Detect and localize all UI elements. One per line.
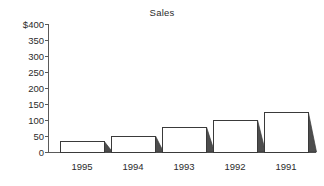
x-tick-label-1991: 1991 <box>275 161 296 172</box>
y-tick-label-100: 100 <box>28 115 44 126</box>
bar-group-1991[interactable] <box>265 113 317 152</box>
bar-1992[interactable] <box>214 120 258 152</box>
bar-1995[interactable] <box>61 142 105 152</box>
bar-group-1994[interactable] <box>112 136 164 152</box>
y-tick-label-0: 0 <box>39 147 44 158</box>
y-tick-label-200: 200 <box>28 83 44 94</box>
bar-group-1993[interactable] <box>163 127 215 152</box>
x-axis-group: 1995 1994 1993 1992 1991 <box>71 161 296 172</box>
x-tick-label-1992: 1992 <box>224 161 245 172</box>
bar-1993[interactable] <box>163 127 207 152</box>
x-tick-label-1995: 1995 <box>71 161 92 172</box>
x-tick-label-1993: 1993 <box>173 161 194 172</box>
bar-shadow-1991 <box>309 113 317 152</box>
bar-1991[interactable] <box>265 113 309 152</box>
plot-area: $400 350 300 250 200 150 100 50 0 <box>0 0 324 186</box>
y-tick-label-300: 300 <box>28 51 44 62</box>
y-tick-label-250: 250 <box>28 67 44 78</box>
bar-group-1992[interactable] <box>214 120 266 152</box>
y-tick-label-350: 350 <box>28 35 44 46</box>
y-tick-label-50: 50 <box>33 131 44 142</box>
y-tick-label-150: 150 <box>28 99 44 110</box>
bar-group-1995[interactable] <box>61 142 113 152</box>
sales-bar-chart: Sales $400 350 300 250 200 150 100 50 0 <box>0 0 324 186</box>
x-tick-label-1994: 1994 <box>122 161 143 172</box>
y-axis-group: $400 350 300 250 200 150 100 50 0 <box>23 19 49 158</box>
y-tick-label-400: $400 <box>23 19 44 30</box>
bar-1994[interactable] <box>112 136 156 152</box>
